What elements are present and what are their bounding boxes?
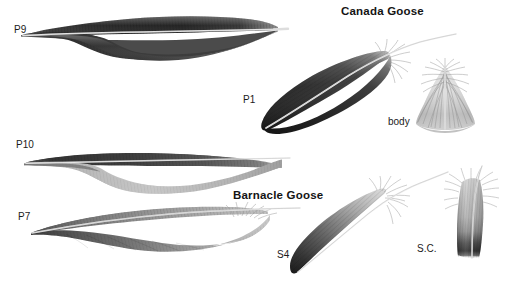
feather-label-p10: P10 bbox=[16, 139, 34, 150]
feather-figure-sc bbox=[443, 168, 505, 268]
species-title-barnacle-goose: Barnacle Goose bbox=[233, 189, 323, 201]
species-title-canada-goose: Canada Goose bbox=[341, 5, 424, 17]
feather-figure-p7 bbox=[26, 202, 301, 260]
feather-label-p7: P7 bbox=[18, 211, 30, 222]
feather-plate: P9 Canada Goose bbox=[0, 0, 519, 290]
feather-label-p1: P1 bbox=[243, 94, 255, 105]
feather-label-body: body bbox=[388, 116, 410, 127]
feather-figure-body bbox=[407, 58, 487, 136]
feather-label-s4: S4 bbox=[277, 249, 289, 260]
feather-label-p9: P9 bbox=[14, 24, 26, 35]
feather-figure-p1 bbox=[250, 38, 465, 138]
feather-label-sc: S.C. bbox=[417, 243, 436, 254]
feather-figure-p9 bbox=[16, 8, 286, 66]
